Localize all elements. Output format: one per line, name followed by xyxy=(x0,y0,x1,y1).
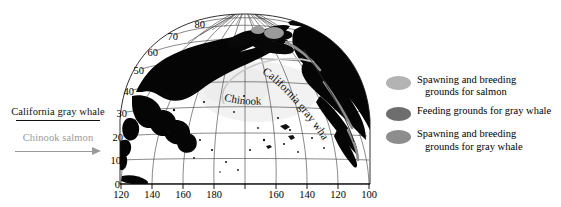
legend-line-2: grounds for salmon xyxy=(417,86,516,98)
x-tick-label: 160 xyxy=(175,189,191,200)
legend-item-whale-feeding: Feeding grounds for gray whale xyxy=(386,105,558,121)
key-item-chinook-salmon: Chinook salmon xyxy=(4,132,112,155)
legend-swatch-whale-spawning xyxy=(386,130,411,144)
legend-label-whale-feeding: Feeding grounds for gray whale xyxy=(417,105,551,117)
x-tick-label: 160 xyxy=(268,189,284,200)
y-tick-label: 0 xyxy=(115,179,120,190)
y-tick-label: 80 xyxy=(195,19,206,30)
x-tick-label: 100 xyxy=(361,189,377,200)
legend-line-2: grounds for gray whale xyxy=(417,141,523,153)
legend-label-whale-spawning: Spawning and breeding grounds for gray w… xyxy=(417,128,523,152)
key-line-sample xyxy=(16,120,100,121)
x-tick-label: 120 xyxy=(113,189,129,200)
x-tick-label: 140 xyxy=(299,189,315,200)
legend-item-salmon-spawning: Spawning and breeding grounds for salmon xyxy=(386,74,558,98)
map-panel: California gray whale Chinook 120 140 16… xyxy=(108,0,383,207)
y-tick-label: 60 xyxy=(148,47,159,58)
legend-item-whale-spawning: Spawning and breeding grounds for gray w… xyxy=(386,128,558,152)
y-tick-label: 20 xyxy=(113,132,124,143)
legend: Spawning and breeding grounds for salmon… xyxy=(386,74,558,160)
y-tick-label: 50 xyxy=(134,65,145,76)
x-tick-label: 180 xyxy=(206,189,222,200)
figure-root: California gray whale Chinook salmon xyxy=(0,0,561,207)
key-item-gray-whale: California gray whale xyxy=(4,106,112,121)
key-arrow-sample xyxy=(15,147,101,155)
legend-swatch-salmon-spawning xyxy=(386,76,411,90)
legend-label-salmon-spawning: Spawning and breeding grounds for salmon xyxy=(417,74,516,98)
legend-line-1: Spawning and breeding xyxy=(417,74,516,85)
legend-swatch-whale-feeding xyxy=(386,107,411,121)
y-tick-label: 10 xyxy=(111,155,122,166)
x-tick-label: 120 xyxy=(330,189,346,200)
y-tick-label: 40 xyxy=(124,86,135,97)
map-key: California gray whale Chinook salmon xyxy=(4,106,112,166)
north-pacific-map: California gray whale Chinook xyxy=(108,0,383,207)
y-tick-label: 30 xyxy=(117,108,128,119)
x-tick-label: 140 xyxy=(144,189,160,200)
y-tick-label: 70 xyxy=(168,31,179,42)
key-label-chinook-salmon: Chinook salmon xyxy=(4,132,112,143)
legend-line-1: Spawning and breeding xyxy=(417,128,516,139)
arrow-head-icon xyxy=(92,147,101,155)
arrow-shaft xyxy=(15,151,93,152)
key-label-gray-whale: California gray whale xyxy=(4,106,112,117)
legend-line-1: Feeding grounds for gray whale xyxy=(417,105,551,116)
